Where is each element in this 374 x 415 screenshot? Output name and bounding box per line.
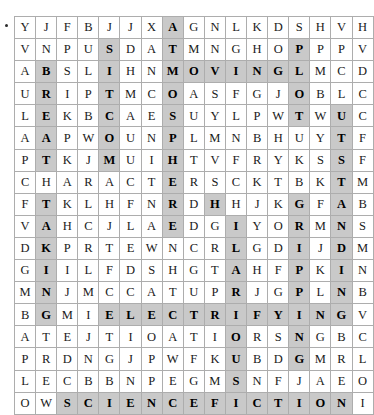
grid-cell[interactable]: V bbox=[15, 39, 36, 61]
grid-cell[interactable]: F bbox=[352, 127, 373, 149]
grid-cell[interactable]: P bbox=[57, 39, 78, 61]
grid-cell-highlighted[interactable]: C bbox=[247, 392, 268, 414]
grid-cell[interactable]: U bbox=[289, 127, 310, 149]
grid-cell[interactable]: W bbox=[141, 237, 162, 259]
grid-cell[interactable]: T bbox=[162, 282, 183, 304]
grid-cell[interactable]: M bbox=[183, 39, 204, 61]
grid-cell[interactable]: K bbox=[268, 193, 289, 215]
grid-cell[interactable]: Y bbox=[268, 149, 289, 171]
grid-cell[interactable]: M bbox=[310, 348, 331, 370]
grid-cell[interactable]: J bbox=[247, 282, 268, 304]
grid-cell[interactable]: K bbox=[310, 260, 331, 282]
grid-cell[interactable]: W bbox=[162, 348, 183, 370]
grid-cell-highlighted[interactable]: U bbox=[331, 105, 352, 127]
grid-cell-highlighted[interactable]: N bbox=[331, 215, 352, 237]
grid-cell[interactable]: J bbox=[78, 149, 99, 171]
grid-cell-highlighted[interactable]: S bbox=[225, 370, 246, 392]
grid-cell[interactable]: K bbox=[289, 149, 310, 171]
grid-cell[interactable]: R bbox=[78, 171, 99, 193]
grid-cell[interactable]: A bbox=[15, 326, 36, 348]
grid-cell[interactable]: I bbox=[141, 149, 162, 171]
grid-cell[interactable]: U bbox=[183, 282, 204, 304]
grid-cell[interactable]: U bbox=[15, 83, 36, 105]
grid-cell[interactable]: A bbox=[183, 83, 204, 105]
grid-cell[interactable]: R bbox=[204, 237, 225, 259]
grid-cell[interactable]: L bbox=[310, 282, 331, 304]
grid-cell[interactable]: N bbox=[141, 127, 162, 149]
grid-cell[interactable]: O bbox=[268, 39, 289, 61]
grid-cell[interactable]: K bbox=[310, 171, 331, 193]
grid-cell[interactable]: J bbox=[57, 282, 78, 304]
grid-cell[interactable]: G bbox=[225, 39, 246, 61]
grid-cell[interactable]: H bbox=[120, 61, 141, 83]
grid-cell-highlighted[interactable]: N bbox=[331, 282, 352, 304]
grid-cell[interactable]: G bbox=[204, 215, 225, 237]
grid-cell[interactable]: P bbox=[204, 282, 225, 304]
grid-cell-highlighted[interactable]: A bbox=[36, 215, 57, 237]
grid-cell[interactable]: L bbox=[15, 370, 36, 392]
grid-cell[interactable]: M bbox=[204, 370, 225, 392]
grid-cell-highlighted[interactable]: O bbox=[289, 83, 310, 105]
grid-cell-highlighted[interactable]: G bbox=[268, 61, 289, 83]
grid-cell[interactable]: D bbox=[352, 61, 373, 83]
grid-cell-highlighted[interactable]: C bbox=[99, 105, 120, 127]
grid-cell-highlighted[interactable]: C bbox=[162, 304, 183, 326]
grid-cell-highlighted[interactable]: B bbox=[36, 61, 57, 83]
grid-cell-highlighted[interactable]: S bbox=[57, 392, 78, 414]
grid-cell-highlighted[interactable]: H bbox=[204, 193, 225, 215]
grid-cell[interactable]: H bbox=[225, 193, 246, 215]
grid-cell-highlighted[interactable]: P bbox=[162, 127, 183, 149]
grid-cell[interactable]: A bbox=[99, 171, 120, 193]
grid-cell[interactable]: P bbox=[141, 348, 162, 370]
grid-cell-highlighted[interactable]: O bbox=[99, 127, 120, 149]
grid-cell[interactable]: B bbox=[352, 282, 373, 304]
grid-cell[interactable]: I bbox=[57, 83, 78, 105]
grid-cell[interactable]: G bbox=[247, 237, 268, 259]
grid-cell[interactable]: B bbox=[247, 127, 268, 149]
grid-cell[interactable]: J bbox=[78, 326, 99, 348]
grid-cell-highlighted[interactable]: H bbox=[162, 149, 183, 171]
grid-cell[interactable]: Y bbox=[247, 215, 268, 237]
grid-cell[interactable]: D bbox=[268, 237, 289, 259]
grid-cell[interactable]: Y bbox=[15, 17, 36, 39]
grid-cell[interactable]: K bbox=[247, 17, 268, 39]
grid-cell[interactable]: W bbox=[36, 392, 57, 414]
grid-cell[interactable]: G bbox=[99, 348, 120, 370]
grid-cell[interactable]: E bbox=[57, 326, 78, 348]
grid-cell-highlighted[interactable]: T bbox=[331, 127, 352, 149]
grid-cell[interactable]: A bbox=[120, 105, 141, 127]
grid-cell-highlighted[interactable]: O bbox=[183, 61, 204, 83]
grid-cell-highlighted[interactable]: S bbox=[99, 39, 120, 61]
grid-cell[interactable]: M bbox=[204, 127, 225, 149]
grid-cell[interactable]: F bbox=[310, 193, 331, 215]
grid-cell[interactable]: F bbox=[183, 348, 204, 370]
grid-cell[interactable]: M bbox=[120, 83, 141, 105]
grid-cell[interactable]: N bbox=[162, 237, 183, 259]
grid-cell-highlighted[interactable]: I bbox=[289, 304, 310, 326]
grid-cell[interactable]: Y bbox=[204, 105, 225, 127]
grid-cell-highlighted[interactable]: F bbox=[247, 304, 268, 326]
grid-cell[interactable]: N bbox=[225, 127, 246, 149]
grid-cell-highlighted[interactable]: N bbox=[331, 392, 352, 414]
grid-cell[interactable]: C bbox=[183, 237, 204, 259]
grid-cell[interactable]: M bbox=[15, 282, 36, 304]
grid-cell[interactable]: C bbox=[352, 105, 373, 127]
grid-cell[interactable]: V bbox=[352, 304, 373, 326]
grid-cell-highlighted[interactable]: I bbox=[289, 392, 310, 414]
grid-cell-highlighted[interactable]: N bbox=[310, 304, 331, 326]
grid-cell[interactable]: C bbox=[99, 282, 120, 304]
grid-cell[interactable]: T bbox=[268, 171, 289, 193]
grid-cell-highlighted[interactable]: E bbox=[36, 105, 57, 127]
grid-cell-highlighted[interactable]: M bbox=[99, 149, 120, 171]
grid-cell-highlighted[interactable]: Y bbox=[268, 304, 289, 326]
grid-cell[interactable]: K bbox=[57, 193, 78, 215]
grid-cell[interactable]: P bbox=[15, 149, 36, 171]
grid-cell[interactable]: O bbox=[15, 392, 36, 414]
grid-cell[interactable]: B bbox=[310, 83, 331, 105]
grid-cell[interactable]: N bbox=[204, 17, 225, 39]
grid-cell[interactable]: M bbox=[78, 282, 99, 304]
grid-cell-highlighted[interactable]: E bbox=[120, 392, 141, 414]
grid-cell[interactable]: J bbox=[120, 17, 141, 39]
grid-cell[interactable]: A bbox=[162, 326, 183, 348]
grid-cell[interactable]: I bbox=[120, 326, 141, 348]
